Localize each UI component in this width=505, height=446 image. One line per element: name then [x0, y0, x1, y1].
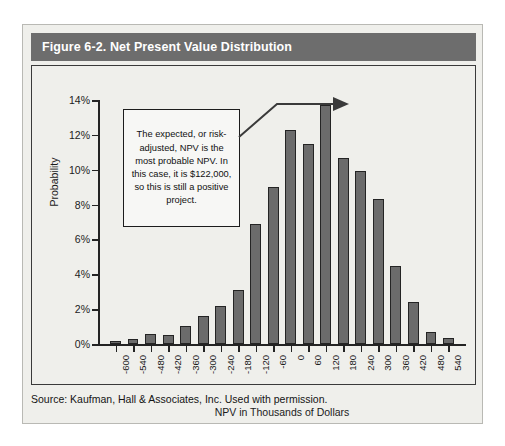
x-axis-tick-mark [326, 345, 328, 352]
x-axis-tick-mark [413, 345, 415, 352]
y-axis-tick-mark [92, 344, 99, 346]
x-axis-tick-label: 180 [347, 355, 358, 371]
x-axis-tick-label: 120 [330, 355, 341, 371]
x-axis-tick-mark [343, 345, 345, 352]
x-axis-tick-mark [168, 345, 170, 352]
y-axis-tick-mark [92, 239, 99, 241]
x-axis-tick-label: -540 [137, 355, 148, 374]
figure-title: Figure 6-2. Net Present Value Distributi… [31, 40, 292, 54]
x-axis-tick-label: -480 [155, 355, 166, 374]
x-axis-tick-label: 480 [435, 355, 446, 371]
x-axis-tick-label: 60 [312, 355, 323, 366]
x-axis-tick-label: 360 [400, 355, 411, 371]
callout-arrow-icon [237, 94, 357, 139]
x-axis-tick-mark [396, 345, 398, 352]
x-axis-tick-mark [221, 345, 223, 352]
y-axis-tick-mark [92, 309, 99, 311]
x-axis-tick-label: -60 [277, 355, 288, 369]
x-axis-tick-label: -600 [120, 355, 131, 374]
chart-bar [426, 332, 437, 344]
figure-title-bar: Figure 6-2. Net Present Value Distributi… [31, 33, 476, 61]
x-axis-tick-label: -120 [260, 355, 271, 374]
y-axis-tick-mark [92, 100, 99, 102]
x-axis-tick-mark [151, 345, 153, 352]
x-axis-tick-label: 0 [295, 355, 306, 360]
x-axis-tick-label: -240 [225, 355, 236, 374]
x-axis-tick-mark [238, 345, 240, 352]
x-axis-tick-mark [431, 345, 433, 352]
y-axis-tick-mark [92, 135, 99, 137]
x-axis-tick-mark [186, 345, 188, 352]
x-axis-tick-mark [133, 345, 135, 352]
figure-card: Figure 6-2. Net Present Value Distributi… [22, 24, 483, 424]
x-axis-tick-mark [291, 345, 293, 352]
x-axis-tick-label: -360 [190, 355, 201, 374]
x-axis-tick-label: 420 [417, 355, 428, 371]
chart-bar [320, 105, 331, 344]
x-axis-title: NPV in Thousands of Dollars [98, 406, 466, 418]
x-axis-tick-mark [256, 345, 258, 352]
x-axis-tick-mark [308, 345, 310, 352]
chart-bar [180, 326, 191, 344]
chart-bar [198, 316, 209, 344]
chart-bar [233, 290, 244, 344]
x-axis-tick-mark [116, 345, 118, 352]
chart-bar [285, 130, 296, 344]
x-axis-line [98, 344, 466, 346]
source-note: Source: Kaufman, Hall & Associates, Inc.… [31, 393, 476, 405]
x-axis-tick-label: 240 [365, 355, 376, 371]
x-axis-tick-mark [273, 345, 275, 352]
chart-bar [303, 144, 314, 344]
chart-plot-area: Probability 0%2%4%6%8%10%12%14% NPV in T… [31, 65, 476, 385]
chart-bar [268, 187, 279, 344]
chart-bar [408, 302, 419, 344]
x-axis-tick-label: -180 [242, 355, 253, 374]
chart-bar [373, 199, 384, 344]
x-axis-tick-mark [361, 345, 363, 352]
x-axis-tick-label: -420 [172, 355, 183, 374]
chart-bar [355, 171, 366, 344]
chart-bar [215, 306, 226, 344]
x-axis-tick-label: 300 [382, 355, 393, 371]
y-axis-tick-mark [92, 205, 99, 207]
chart-bar [250, 224, 261, 344]
chart-bar [163, 335, 174, 344]
callout-annotation: The expected, or risk-adjusted, NPV is t… [123, 109, 240, 227]
chart-bar [390, 266, 401, 344]
y-axis-tick-mark [92, 170, 99, 172]
chart-bar [338, 158, 349, 344]
y-axis-tick-mark [92, 274, 99, 276]
x-axis-tick-mark [203, 345, 205, 352]
x-axis-tick-label: 540 [452, 355, 463, 371]
chart-bar [145, 334, 156, 344]
x-axis-tick-label: -300 [207, 355, 218, 374]
callout-annotation-text: The expected, or risk-adjusted, NPV is t… [131, 128, 232, 207]
x-axis-tick-mark [448, 345, 450, 352]
x-axis-tick-mark [378, 345, 380, 352]
